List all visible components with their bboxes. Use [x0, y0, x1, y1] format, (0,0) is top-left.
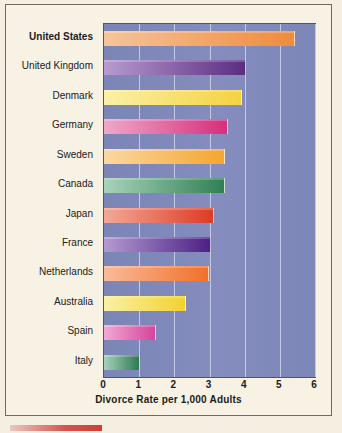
category-label-denmark: Denmark — [0, 90, 93, 102]
x-tick-1: 1 — [135, 379, 141, 390]
bar-canada — [104, 178, 225, 193]
bar-france — [104, 237, 211, 252]
category-label-japan: Japan — [0, 208, 93, 220]
bar-netherlands — [104, 266, 209, 281]
bar-australia — [104, 296, 186, 311]
category-label-united-states: United States — [0, 31, 93, 43]
bar-row — [104, 53, 315, 82]
bar-row — [104, 230, 315, 259]
x-tick-3: 3 — [206, 379, 212, 390]
bar-row — [104, 24, 315, 53]
bar-row — [104, 201, 315, 230]
plot-area — [103, 23, 316, 378]
bar-row — [104, 259, 315, 288]
x-tick-2: 2 — [171, 379, 177, 390]
category-label-australia: Australia — [0, 296, 93, 308]
x-tick-0: 0 — [100, 379, 106, 390]
gridline-6 — [315, 24, 316, 377]
bar-series — [104, 24, 315, 377]
bar-row — [104, 318, 315, 347]
category-label-italy: Italy — [0, 355, 93, 367]
bar-sweden — [104, 149, 225, 164]
bottom-color-strip — [10, 425, 102, 431]
bar-row — [104, 348, 315, 377]
bar-row — [104, 83, 315, 112]
category-label-netherlands: Netherlands — [0, 266, 93, 278]
category-label-spain: Spain — [0, 325, 93, 337]
bar-japan — [104, 208, 214, 223]
bar-row — [104, 142, 315, 171]
x-axis-ticks: 0123456 — [103, 379, 314, 393]
bar-united-states — [104, 31, 295, 46]
chart-card: United StatesUnited KingdomDenmarkGerman… — [5, 4, 332, 416]
category-label-united-kingdom: United Kingdom — [0, 60, 93, 72]
chart-figure: United StatesUnited KingdomDenmarkGerman… — [0, 0, 342, 433]
bar-denmark — [104, 90, 242, 105]
x-tick-4: 4 — [241, 379, 247, 390]
bar-italy — [104, 355, 140, 370]
category-label-france: France — [0, 237, 93, 249]
bar-row — [104, 171, 315, 200]
category-label-germany: Germany — [0, 119, 93, 131]
bar-row — [104, 112, 315, 141]
x-tick-5: 5 — [276, 379, 282, 390]
bar-germany — [104, 119, 228, 134]
category-label-sweden: Sweden — [0, 149, 93, 161]
bar-spain — [104, 325, 156, 340]
x-axis-title: Divorce Rate per 1,000 Adults — [6, 394, 331, 405]
chart-card-inner: United StatesUnited KingdomDenmarkGerman… — [6, 5, 331, 415]
bar-row — [104, 289, 315, 318]
x-tick-6: 6 — [311, 379, 317, 390]
category-label-canada: Canada — [0, 178, 93, 190]
bar-united-kingdom — [104, 60, 246, 75]
